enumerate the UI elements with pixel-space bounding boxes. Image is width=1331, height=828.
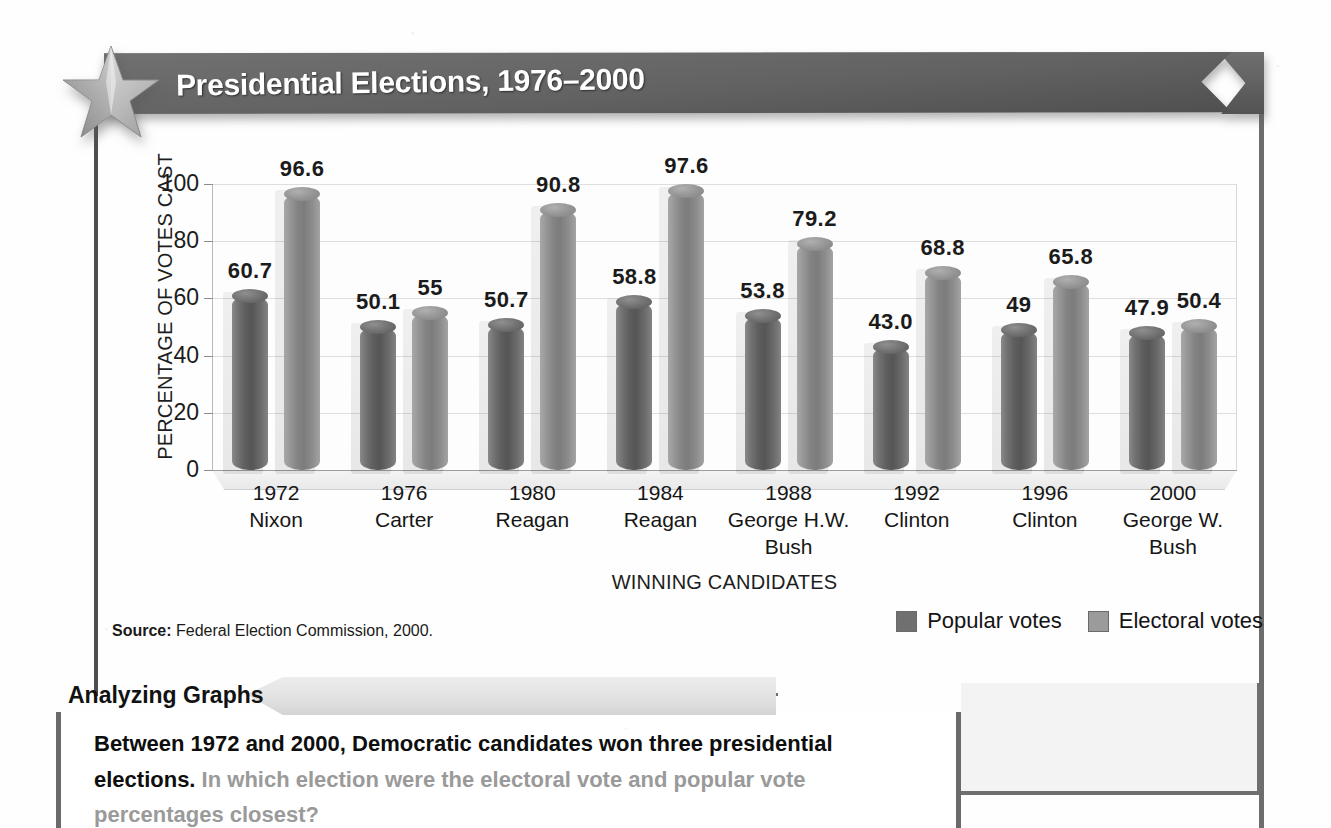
bar-cylinder: [412, 313, 448, 470]
bar-cylinder: [745, 316, 781, 470]
caption-text: Between 1972 and 2000, Democratic candid…: [94, 726, 924, 828]
bar-value-label: 47.9: [1125, 295, 1169, 321]
x-axis-year: 1980: [468, 480, 596, 507]
bar-group: 60.796.6: [212, 184, 340, 470]
bar-cylinder: [284, 194, 320, 470]
x-axis-labels: 1972Nixon1976Carter1980Reagan1984Reagan1…: [212, 480, 1237, 561]
bar-cap: [616, 295, 652, 309]
bar-popular[interactable]: 50.1: [360, 327, 396, 470]
page-rule-left: [94, 96, 98, 696]
x-axis-year: 2000: [1109, 480, 1237, 507]
bar-value-label: 79.2: [792, 206, 836, 232]
side-panel: [961, 683, 1261, 795]
bar-popular[interactable]: 50.7: [488, 325, 524, 470]
legend-label-electoral: Electoral votes: [1119, 608, 1263, 634]
bar-value-label: 55: [418, 275, 443, 301]
bar-cap: [1181, 319, 1217, 333]
chart-legend: Popular votes Electoral votes: [896, 608, 1263, 634]
bar-cap: [797, 237, 833, 251]
bar-cylinder: [797, 244, 833, 471]
y-tick-label: 0: [186, 456, 199, 483]
bar-popular[interactable]: 58.8: [616, 302, 652, 470]
x-axis-candidate: George W. Bush: [1109, 507, 1237, 561]
legend-item-electoral[interactable]: Electoral votes: [1088, 608, 1263, 634]
legend-swatch-electoral-icon: [1088, 611, 1109, 632]
tab-label: Analyzing Graphs: [68, 682, 264, 709]
plot-area: 020406080100 60.796.650.15550.790.858.89…: [212, 184, 1237, 470]
x-axis-year: 1992: [853, 480, 981, 507]
bar-value-label: 68.8: [920, 235, 964, 261]
bar-value-label: 90.8: [536, 172, 580, 198]
x-axis-title: WINNING CANDIDATES: [212, 571, 1237, 594]
bar-popular[interactable]: 53.8: [745, 316, 781, 470]
bar-group: 4965.8: [981, 184, 1109, 470]
bar-electoral[interactable]: 90.8: [540, 210, 576, 470]
bar-popular[interactable]: 49: [1001, 330, 1037, 470]
bar-value-label: 50.1: [356, 289, 400, 315]
bar-electoral[interactable]: 96.6: [284, 194, 320, 470]
bar-cylinder: [1181, 326, 1217, 470]
bar-value-label: 60.7: [228, 258, 272, 284]
bar-cylinder: [873, 347, 909, 470]
y-tick-label: 40: [173, 342, 199, 369]
bar-electoral[interactable]: 97.6: [668, 191, 704, 470]
bar-popular[interactable]: 47.9: [1129, 333, 1165, 470]
bar-value-label: 49: [1006, 292, 1031, 318]
legend-item-popular[interactable]: Popular votes: [896, 608, 1062, 634]
x-axis-candidate: Reagan: [468, 507, 596, 534]
x-axis-year: 1996: [981, 480, 1109, 507]
caption-box: Between 1972 and 2000, Democratic candid…: [56, 712, 961, 828]
x-axis-candidate: Carter: [340, 507, 468, 534]
x-axis-group-label: 1996Clinton: [981, 480, 1109, 561]
bar-cylinder: [616, 302, 652, 470]
bar-group: 50.790.8: [468, 184, 596, 470]
bar-value-label: 43.0: [868, 309, 912, 335]
bar-cap: [1053, 275, 1089, 289]
x-axis-group-label: 1972Nixon: [212, 480, 340, 561]
bar-cap: [1129, 326, 1165, 340]
bar-group: 58.897.6: [596, 184, 724, 470]
bar-popular[interactable]: 60.7: [232, 296, 268, 470]
bar-cap: [668, 184, 704, 198]
x-axis-group-label: 1976Carter: [340, 480, 468, 561]
bar-cap: [360, 320, 396, 334]
y-tick-label: 20: [173, 399, 199, 426]
bar-electoral[interactable]: 79.2: [797, 244, 833, 471]
legend-swatch-popular-icon: [896, 611, 917, 632]
x-axis-group-label: 1980Reagan: [468, 480, 596, 561]
bar-electoral[interactable]: 55: [412, 313, 448, 470]
y-tick-label: 60: [173, 284, 199, 311]
bar-chart: PERCENTAGE OF VOTES CAST 020406080100 60…: [100, 150, 1260, 590]
bar-cylinder: [232, 296, 268, 470]
title-ribbon: Presidential Elections, 1976–2000: [104, 52, 1264, 114]
source-note: Source: Federal Election Commission, 200…: [112, 622, 433, 640]
bar-group: 43.068.8: [853, 184, 981, 470]
x-axis-candidate: Nixon: [212, 507, 340, 534]
x-axis-year: 1988: [725, 480, 853, 507]
bar-value-label: 53.8: [740, 278, 784, 304]
bar-cap: [873, 340, 909, 354]
bar-cylinder: [540, 210, 576, 470]
x-axis-group-label: 1992Clinton: [853, 480, 981, 561]
star-icon: [59, 42, 163, 146]
caption-question: In which election were the electoral vot…: [94, 767, 806, 828]
bar-electoral[interactable]: 68.8: [925, 273, 961, 470]
bar-cylinder: [360, 327, 396, 470]
bar-value-label: 58.8: [612, 264, 656, 290]
bar-popular[interactable]: 43.0: [873, 347, 909, 470]
x-axis-year: 1976: [340, 480, 468, 507]
bar-cap: [1001, 323, 1037, 337]
bar-electoral[interactable]: 50.4: [1181, 326, 1217, 470]
y-tick-label: 80: [173, 227, 199, 254]
bar-group: 47.950.4: [1109, 184, 1237, 470]
x-axis-candidate: Clinton: [981, 507, 1109, 534]
bar-electoral[interactable]: 65.8: [1053, 282, 1089, 470]
bar-value-label: 65.8: [1049, 244, 1093, 270]
x-axis-group-label: 1988George H.W. Bush: [725, 480, 853, 561]
bar-cylinder: [1053, 282, 1089, 470]
x-axis-year: 1984: [596, 480, 724, 507]
bar-value-label: 96.6: [280, 156, 324, 182]
source-text: Federal Election Commission, 2000.: [176, 622, 433, 639]
x-axis-candidate: Clinton: [853, 507, 981, 534]
bar-cylinder: [1001, 330, 1037, 470]
